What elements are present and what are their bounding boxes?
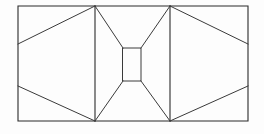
figure-background bbox=[0, 0, 264, 134]
line-drawing-figure bbox=[0, 0, 264, 134]
